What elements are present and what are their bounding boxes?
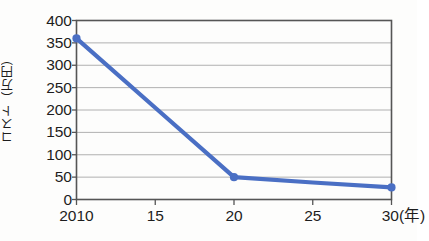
x-tick-label: 15	[130, 208, 180, 224]
x-tick-label: 2010	[52, 208, 102, 224]
series-line	[77, 38, 392, 187]
data-markers	[72, 34, 395, 191]
x-tick-label: 25	[288, 208, 338, 224]
data-line	[77, 38, 392, 187]
data-point-marker	[230, 173, 238, 181]
x-tick-label: 20	[209, 208, 259, 224]
x-tick-label: 30(年)	[370, 208, 429, 224]
data-point-marker	[387, 183, 395, 191]
data-point-marker	[72, 34, 80, 42]
gridlines	[77, 43, 392, 177]
